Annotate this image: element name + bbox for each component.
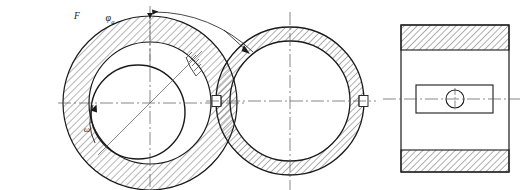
right-view-bearing-elevation [383,25,520,172]
right-top-flange-band [401,25,509,50]
drawing-canvas: F φa ω [0,0,522,190]
right-bottom-flange-band [401,150,509,172]
omega-label: ω [84,124,90,134]
force-label: F [73,11,80,21]
engineering-drawing-sheet: F φa ω [0,0,522,190]
middle-view-bearing-bush-end [206,12,376,190]
